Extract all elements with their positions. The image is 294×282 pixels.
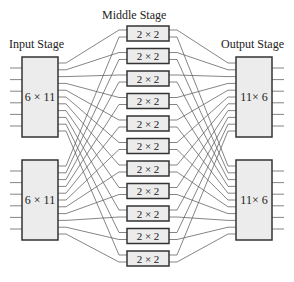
middle-stage-title: Middle Stage: [102, 8, 166, 23]
input-middle-wire: [66, 217, 119, 220]
input-middle-wire: [66, 30, 119, 63]
input-middle-wire: [66, 83, 119, 97]
middle-switch-7-label: 2 × 2: [137, 163, 160, 175]
output-stage-title: Output Stage: [221, 37, 284, 52]
middle-switch-10-label: 2 × 2: [137, 230, 160, 242]
middle-switch-6-label: 2 × 2: [137, 140, 160, 152]
input-switch-1-label: 6 × 11: [25, 90, 55, 104]
middle-output-wire: [177, 97, 228, 143]
input-middle-wire: [66, 37, 119, 166]
middle-output-wire: [177, 83, 228, 97]
input-switch-2-label: 6 × 11: [25, 193, 55, 207]
middle-output-wire: [177, 124, 228, 232]
middle-output-wire: [177, 217, 228, 220]
middle-switch-1-label: 2 × 2: [137, 28, 160, 40]
middle-switch-9-label: 2 × 2: [137, 208, 160, 220]
input-middle-wire: [66, 53, 119, 70]
middle-switch-5-label: 2 × 2: [137, 118, 160, 130]
middle-switch-2-label: 2 × 2: [137, 50, 160, 62]
output-switch-2-label: 11× 6: [240, 193, 267, 207]
middle-switch-11-label: 2 × 2: [137, 253, 160, 265]
input-middle-wire: [66, 172, 119, 207]
output-switch-1-label: 11× 6: [240, 90, 267, 104]
middle-output-wire: [177, 172, 228, 207]
middle-output-wire: [177, 127, 228, 193]
input-middle-wire: [66, 124, 119, 232]
middle-output-wire: [177, 195, 228, 214]
middle-switch-3-label: 2 × 2: [137, 73, 160, 85]
clos-network-diagram: 2 × 22 × 22 × 22 × 22 × 22 × 22 × 22 × 2…: [0, 0, 294, 282]
input-middle-wire: [66, 234, 119, 262]
input-stage-title: Input Stage: [9, 37, 64, 52]
middle-output-wire: [177, 53, 228, 70]
input-middle-wire: [66, 195, 119, 214]
middle-switch-4-label: 2 × 2: [137, 95, 160, 107]
middle-output-wire: [177, 227, 228, 239]
middle-output-wire: [177, 234, 228, 262]
input-middle-wire: [66, 227, 119, 239]
input-middle-wire: [66, 97, 119, 143]
middle-output-wire: [177, 37, 228, 166]
input-middle-wire: [66, 127, 119, 193]
middle-switch-8-label: 2 × 2: [137, 185, 160, 197]
